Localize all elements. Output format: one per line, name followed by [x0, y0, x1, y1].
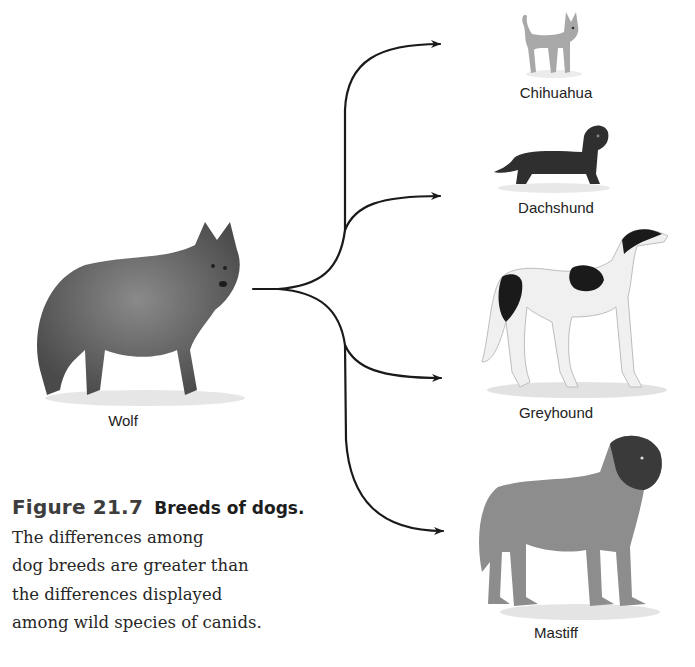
wolf-icon — [25, 210, 250, 410]
figure-title: Breeds of dogs. — [154, 498, 304, 518]
caption-line-4: the differences displayed — [12, 581, 342, 610]
mastiff-label: Mastiff — [534, 624, 578, 641]
chihuahua-label: Chihuahua — [520, 84, 593, 101]
greyhound-icon — [472, 222, 668, 400]
arrow-to-chihuahua — [278, 44, 440, 289]
caption-line-1: Figure 21.7 Breeds of dogs. — [12, 493, 342, 524]
mastiff-icon — [470, 432, 668, 622]
figure-caption: Figure 21.7 Breeds of dogs. The differen… — [12, 493, 342, 638]
caption-line-3: dog breeds are greater than — [12, 552, 342, 581]
caption-line-2: The differences among — [12, 524, 342, 553]
arrow-to-dachshund — [345, 196, 440, 230]
dachshund-label: Dachshund — [518, 199, 594, 216]
caption-line-5: among wild species of canids. — [12, 609, 342, 638]
greyhound-label: Greyhound — [519, 404, 593, 421]
wolf-label: Wolf — [108, 412, 138, 429]
figure-number: Figure 21.7 — [12, 495, 143, 519]
arrow-to-mastiff — [345, 345, 443, 531]
chihuahua-icon — [518, 6, 588, 78]
arrow-to-greyhound — [278, 289, 441, 378]
dachshund-icon — [492, 118, 618, 194]
